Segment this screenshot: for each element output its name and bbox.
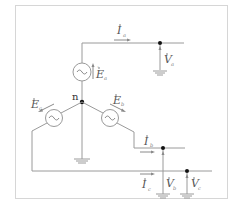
source-a-icon — [73, 63, 91, 81]
current-a-subscript: a — [123, 32, 126, 38]
node-b-icon — [161, 146, 165, 150]
source-c-subscript: c — [39, 105, 42, 111]
source-b-label: E — [112, 94, 121, 107]
source-b-icon — [102, 110, 119, 127]
current-a-arrow-icon — [114, 39, 131, 42]
ground-a-icon — [153, 71, 167, 75]
source-c-icon — [46, 110, 63, 127]
current-b-label: I — [143, 135, 149, 148]
current-c-label: I — [141, 178, 147, 191]
ground-c-icon — [180, 194, 194, 198]
phase-b-neutral-lead — [82, 102, 103, 113]
current-c-subscript: c — [148, 186, 151, 192]
node-c-icon — [185, 169, 189, 173]
source-a-arrow-icon — [92, 63, 95, 79]
phase-c-branch — [32, 123, 212, 171]
circuit-diagram: E · a I a V a n E c — [0, 0, 236, 224]
current-a-label: I — [116, 24, 122, 37]
voltage-a-arrow-icon — [159, 46, 162, 50]
phase-c-neutral-lead — [61, 102, 82, 113]
ground-b-icon — [156, 194, 170, 198]
current-b-arrow-icon — [140, 151, 155, 154]
node-a-icon — [158, 41, 162, 45]
source-a-dot: · — [97, 63, 99, 70]
voltage-a-subscript: a — [171, 61, 174, 67]
neutral-node-label: n — [72, 91, 79, 102]
source-c-label: E — [30, 98, 39, 111]
source-a-subscript: a — [104, 75, 107, 81]
source-b-subscript: b — [121, 101, 124, 107]
voltage-c-arrow-icon — [186, 174, 189, 178]
ground-neutral-icon — [74, 159, 90, 163]
voltage-b-arrow-icon — [162, 151, 165, 155]
voltage-b-subscript: b — [173, 185, 176, 191]
voltage-c-subscript: c — [198, 185, 201, 191]
current-b-subscript: b — [150, 142, 153, 148]
current-c-arrow-icon — [140, 173, 155, 176]
